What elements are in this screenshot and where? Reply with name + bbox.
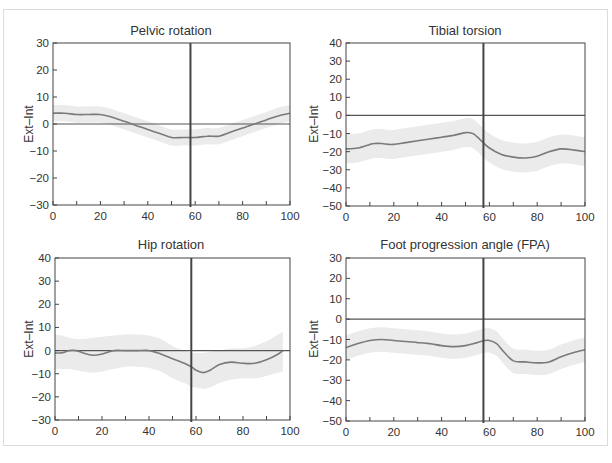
x-tick-label: 100 [280, 210, 299, 222]
sd-band [53, 105, 290, 146]
y-tick-label: −40 [322, 182, 342, 194]
x-tick-label: 80 [531, 211, 544, 223]
y-axis-label: Ext–Int [307, 105, 321, 143]
panel-pelvic-rotation: Pelvic rotation Ext–Int 0204060801003020… [22, 23, 300, 222]
x-tick-label: 80 [236, 210, 249, 222]
y-tick-label: 20 [329, 73, 342, 85]
y-tick-label: 10 [38, 321, 51, 333]
y-tick-label: −30 [29, 199, 49, 211]
x-tick-label: 0 [50, 210, 56, 222]
y-tick-label: −50 [322, 200, 342, 212]
y-tick-label: −40 [322, 395, 342, 407]
y-tick-label: 20 [36, 64, 49, 76]
panel-foot-progression-angle: Foot progression angle (FPA) Ext–Int 020… [307, 237, 595, 438]
y-tick-label: 30 [38, 275, 51, 287]
y-axis-label: Ext–Int [22, 320, 36, 358]
x-tick-label: 40 [141, 210, 154, 222]
x-tick-label: 80 [531, 426, 544, 438]
x-tick-label: 40 [143, 425, 156, 437]
panel-hip-rotation: Hip rotation Ext–Int 0204060801004030201… [22, 237, 300, 437]
y-tick-label: −20 [31, 391, 51, 403]
x-tick-label: 20 [387, 426, 400, 438]
panel-tibial-torsion: Tibial torsion Ext–Int 02040608010040302… [307, 23, 595, 223]
y-tick-label: −30 [322, 374, 342, 386]
y-tick-label: 10 [329, 91, 342, 103]
y-tick-label: −20 [322, 146, 342, 158]
sd-band [346, 118, 585, 172]
y-tick-label: −30 [322, 164, 342, 176]
y-tick-label: −30 [31, 414, 51, 426]
y-tick-label: −10 [31, 368, 51, 380]
x-tick-label: 0 [52, 425, 58, 437]
x-tick-label: 60 [189, 210, 202, 222]
figure: Pelvic rotation Ext–Int 0204060801003020… [0, 0, 612, 463]
panel-title: Tibial torsion [428, 23, 501, 38]
x-tick-label: 40 [435, 426, 448, 438]
panel-title: Hip rotation [138, 237, 204, 252]
y-tick-label: 10 [36, 91, 49, 103]
y-tick-label: 0 [336, 109, 342, 121]
x-tick-label: 20 [96, 425, 109, 437]
y-tick-label: 10 [329, 293, 342, 305]
y-tick-label: −10 [322, 128, 342, 140]
y-tick-label: 30 [36, 37, 49, 49]
x-tick-label: 80 [237, 425, 250, 437]
y-tick-label: 40 [329, 37, 342, 49]
y-axis-label: Ext–Int [22, 105, 36, 143]
x-tick-label: 20 [94, 210, 107, 222]
y-tick-label: −10 [322, 334, 342, 346]
x-tick-label: 0 [343, 426, 349, 438]
y-tick-label: 30 [329, 55, 342, 67]
x-tick-label: 100 [575, 211, 594, 223]
x-tick-label: 100 [280, 425, 299, 437]
x-tick-label: 60 [483, 426, 496, 438]
sd-band [55, 332, 283, 389]
x-tick-label: 60 [483, 211, 496, 223]
y-axis-label: Ext–Int [307, 320, 321, 358]
x-tick-label: 60 [190, 425, 203, 437]
y-tick-label: −50 [322, 415, 342, 427]
panel-title: Foot progression angle (FPA) [380, 237, 550, 252]
x-tick-label: 20 [387, 211, 400, 223]
y-tick-label: 20 [38, 298, 51, 310]
y-tick-label: −10 [29, 145, 49, 157]
y-tick-label: −20 [322, 354, 342, 366]
x-tick-label: 40 [435, 211, 448, 223]
y-tick-label: 0 [45, 345, 51, 357]
y-tick-label: 20 [329, 272, 342, 284]
x-tick-label: 100 [575, 426, 594, 438]
y-tick-label: −20 [29, 172, 49, 184]
y-tick-label: 0 [43, 118, 49, 130]
y-tick-label: 30 [329, 252, 342, 264]
x-tick-label: 0 [343, 211, 349, 223]
y-tick-label: 0 [336, 313, 342, 325]
sd-band [346, 327, 585, 375]
y-tick-label: 40 [38, 252, 51, 264]
panel-title: Pelvic rotation [130, 23, 212, 38]
